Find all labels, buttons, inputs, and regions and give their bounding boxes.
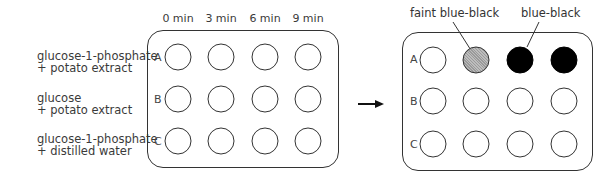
well-a2-after-faint <box>463 47 490 74</box>
well-c1-after <box>420 131 447 158</box>
well-a1-after <box>420 47 447 74</box>
row-label-b-after: B <box>410 95 418 108</box>
well-b4-after <box>551 88 578 115</box>
well-b3-after <box>507 88 534 115</box>
row-label-a-after: A <box>410 53 418 66</box>
well-c2-after <box>463 131 490 158</box>
row-label-c-after: C <box>410 138 418 151</box>
annotation-faint-blue-black: faint blue-black <box>410 6 499 20</box>
well-b2-after <box>463 88 490 115</box>
annotation-blue-black: blue-black <box>521 6 581 20</box>
well-a3-after-dark <box>507 47 534 74</box>
well-c3-after <box>507 131 534 158</box>
right-arrow-icon <box>358 100 384 108</box>
well-c4-after <box>551 131 578 158</box>
well-a4-after-dark <box>551 47 578 74</box>
well-b1-after <box>420 88 447 115</box>
